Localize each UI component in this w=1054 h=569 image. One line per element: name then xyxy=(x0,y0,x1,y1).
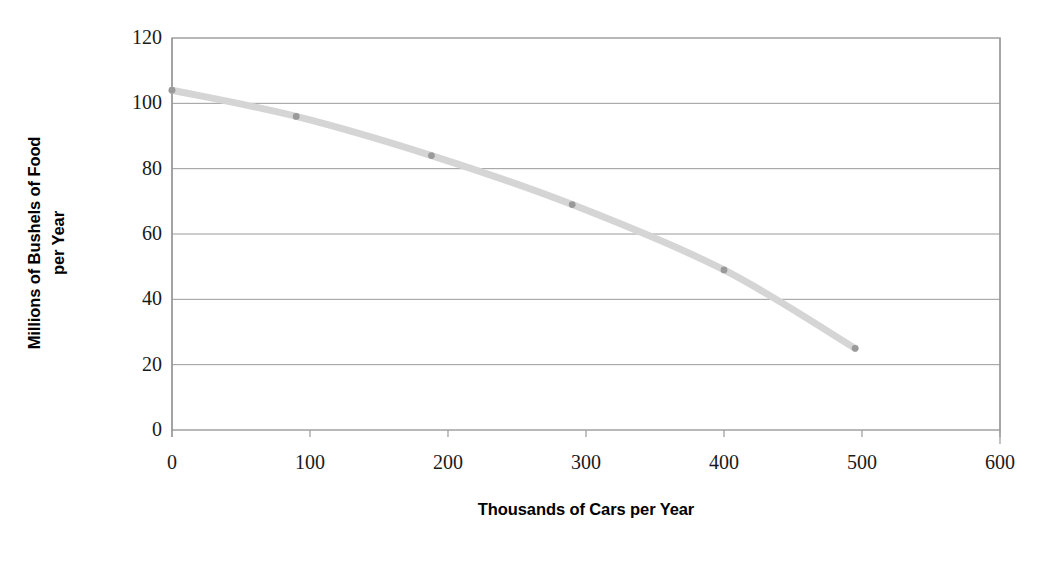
x-axis-tick-label: 600 xyxy=(960,452,1040,472)
data-point-marker xyxy=(569,201,576,208)
data-point-marker xyxy=(169,87,176,94)
x-axis-tick-label: 300 xyxy=(546,452,626,472)
chart-container: Millions of Bushels of Food per Year 020… xyxy=(0,0,1054,569)
data-series xyxy=(169,87,859,352)
x-axis-tick-label: 100 xyxy=(270,452,350,472)
x-axis-title: Thousands of Cars per Year xyxy=(172,500,1000,519)
x-axis-tick-label: 200 xyxy=(408,452,488,472)
gridlines xyxy=(172,103,1000,364)
x-axis-tick-label: 400 xyxy=(684,452,764,472)
x-axis-tick-label: 500 xyxy=(822,452,902,472)
series-line xyxy=(172,90,855,348)
data-point-marker xyxy=(721,267,728,274)
data-point-marker xyxy=(852,345,859,352)
axis-frame xyxy=(172,38,1000,444)
data-point-marker xyxy=(293,113,300,120)
x-axis-tick-labels: 0100200300400500600 xyxy=(0,452,1054,482)
x-axis-tick-label: 0 xyxy=(132,452,212,472)
plot-area xyxy=(0,0,1054,569)
data-point-marker xyxy=(428,152,435,159)
